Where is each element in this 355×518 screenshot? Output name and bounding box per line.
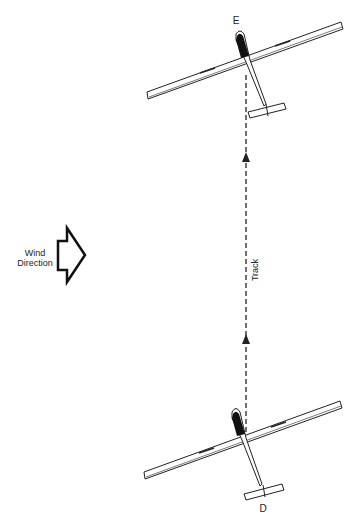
glider-top-label: E: [233, 15, 240, 26]
track-label: Track: [250, 258, 260, 281]
wind-label-line2: Direction: [17, 258, 53, 268]
wind-label-line1: Wind: [25, 248, 46, 258]
glider-bottom-label: D: [259, 503, 266, 514]
track-arrow-lower: [242, 334, 250, 344]
glider-top: [147, 22, 343, 118]
diagram-canvas: Track Wind Direction E D: [0, 0, 355, 518]
track-arrow-upper: [242, 152, 250, 162]
glider-bottom: [144, 401, 342, 500]
wind-arrow-icon: [58, 228, 85, 282]
